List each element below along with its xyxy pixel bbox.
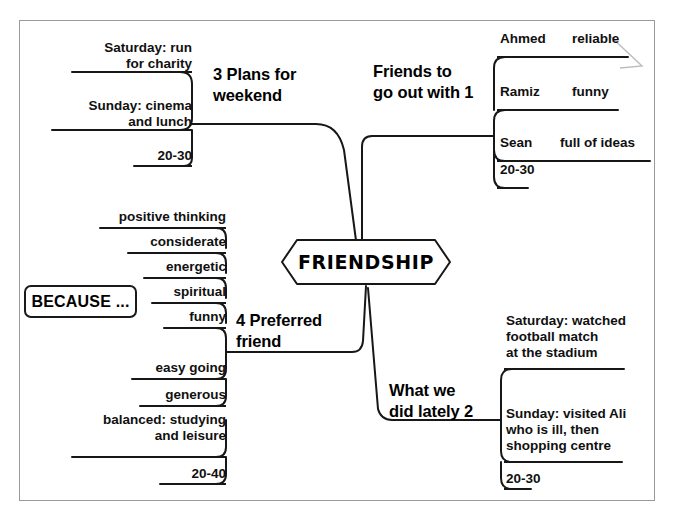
leaf-preferred-positive-thinking[interactable]: positive thinking	[96, 209, 226, 226]
leaf-lately-timecode[interactable]: 20-30	[506, 471, 576, 488]
branch-label-what-we-did-lately[interactable]: What we did lately 2	[389, 380, 509, 421]
branch-label-preferred-friend[interactable]: 4 Preferred friend	[236, 310, 356, 351]
leaf-preferred-balanced[interactable]: balanced: studying and leisure	[66, 412, 226, 445]
leaf-lately-saturday[interactable]: Saturday: watched football match at the …	[506, 313, 651, 363]
leaf-preferred-easy-going[interactable]: easy going	[126, 360, 226, 377]
leaf-preferred-timecode[interactable]: 20-40	[156, 466, 226, 483]
leaf-plans-timecode[interactable]: 20-30	[122, 148, 192, 165]
because-node[interactable]: BECAUSE ...	[24, 285, 137, 318]
leaf-friend-name-ahmed[interactable]: Ahmed	[500, 31, 570, 48]
leaf-lately-sunday[interactable]: Sunday: visited Ali who is ill, then sho…	[506, 406, 656, 456]
because-label: BECAUSE ...	[31, 293, 129, 311]
leaf-preferred-energetic[interactable]: energetic	[126, 259, 226, 276]
leaf-preferred-spiritual[interactable]: spiritual	[136, 284, 226, 301]
leaf-preferred-funny[interactable]: funny	[146, 309, 226, 326]
leaf-friends-timecode[interactable]: 20-30	[500, 162, 570, 179]
leaf-friend-name-ramiz[interactable]: Ramiz	[500, 84, 570, 101]
mindmap-page: FRIENDSHIP BECAUSE ... 3 Plans for weeke…	[0, 0, 675, 520]
leaf-plans-sunday[interactable]: Sunday: cinema and lunch	[42, 98, 192, 131]
leaf-friend-trait-ramiz[interactable]: funny	[572, 84, 675, 101]
leaf-preferred-considerate[interactable]: considerate	[116, 234, 226, 251]
leaf-friend-trait-sean[interactable]: full of ideas	[560, 135, 675, 152]
branch-label-plans-for-weekend[interactable]: 3 Plans for weekend	[213, 64, 333, 105]
leaf-preferred-generous[interactable]: generous	[126, 387, 226, 404]
center-node[interactable]: FRIENDSHIP	[282, 238, 450, 286]
leaf-plans-saturday[interactable]: Saturday: run for charity	[62, 40, 192, 73]
leaf-friend-trait-ahmed[interactable]: reliable	[572, 31, 675, 48]
branch-label-friends-to-go-out-with[interactable]: Friends to go out with 1	[373, 61, 503, 102]
center-node-label: FRIENDSHIP	[282, 238, 450, 286]
